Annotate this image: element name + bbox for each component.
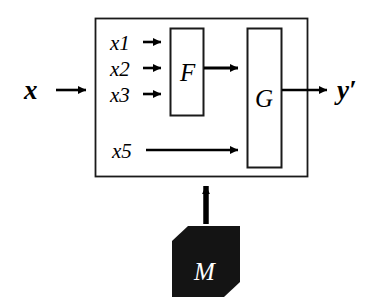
block-label-m: M	[193, 258, 216, 285]
input-label-x5: x5	[111, 139, 132, 163]
input-label-x2: x2	[109, 57, 130, 81]
input-label-x1: x1	[109, 31, 130, 55]
block-label-f: F	[179, 59, 196, 86]
input-label-x: x	[23, 75, 38, 105]
output-label-y-prime: y′	[334, 75, 357, 105]
input-label-x3: x3	[109, 83, 130, 107]
block-diagram: x x1 x2 x3 x5 F G M y′	[0, 0, 385, 307]
block-label-g: G	[255, 85, 273, 112]
diagram-canvas: x x1 x2 x3 x5 F G M y′	[0, 0, 385, 307]
